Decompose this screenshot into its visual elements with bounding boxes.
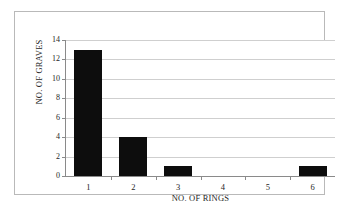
y-axis-tick-label: 14 [52, 36, 60, 44]
y-axis-tick-label: 4 [56, 133, 60, 141]
y-axis-tick-label: 10 [52, 75, 60, 83]
y-axis-tick-label: 12 [52, 55, 60, 63]
y-axis-tick-label: 0 [56, 172, 60, 180]
gridline [66, 59, 335, 60]
figure-border: NO. OF GRAVES 02468101214 123456 NO. OF … [14, 11, 325, 195]
gridline [66, 79, 335, 80]
bar [74, 50, 102, 176]
bar [164, 166, 192, 176]
gridline [66, 157, 335, 158]
x-axis-tick-label: 3 [176, 183, 180, 192]
y-axis-title: NO. OF GRAVES [32, 12, 46, 132]
y-axis-tick-label: 2 [56, 153, 60, 161]
x-axis-tick-label: 6 [310, 183, 314, 192]
x-axis-line [65, 176, 335, 177]
gridline [66, 137, 335, 138]
gridline [66, 98, 335, 99]
x-axis-title: NO. OF RINGS [66, 193, 335, 203]
x-axis-tick-label: 1 [86, 183, 90, 192]
x-axis-tick-label: 2 [131, 183, 135, 192]
y-axis-tick-label: 6 [56, 114, 60, 122]
bar [119, 137, 147, 176]
y-axis-line [65, 40, 66, 176]
y-axis-tick-label: 8 [56, 94, 60, 102]
x-axis-tick-label: 4 [221, 183, 225, 192]
plot-area: 02468101214 123456 [66, 40, 335, 176]
gridline [66, 40, 335, 41]
x-axis-tick-label: 5 [266, 183, 270, 192]
gridline [66, 118, 335, 119]
bar-chart-figure: NO. OF GRAVES 02468101214 123456 NO. OF … [0, 0, 341, 214]
bar [299, 166, 327, 176]
